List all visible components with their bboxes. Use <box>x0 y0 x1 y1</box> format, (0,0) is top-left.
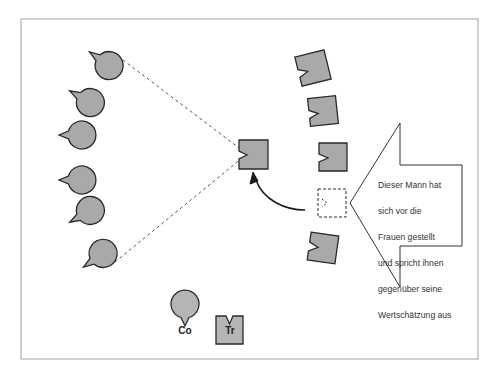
dashed-line-lower <box>115 154 247 262</box>
callout-text: Dieser Mann hat sich vor die Frauen gest… <box>378 166 466 335</box>
man-square-1 <box>295 50 331 86</box>
callout-line-4: und spricht ihnen <box>378 257 466 270</box>
man-square-center <box>239 140 268 169</box>
man-square-5 <box>307 232 339 264</box>
curved-arrow-icon <box>250 172 305 210</box>
woman-circle-4 <box>59 166 96 194</box>
man-square-empty-dashed <box>318 189 346 217</box>
woman-circle-2 <box>64 83 107 120</box>
legend-co-circle <box>171 290 199 326</box>
dashed-line-upper <box>123 60 247 154</box>
woman-circle-6 <box>77 236 121 275</box>
man-square-2 <box>308 96 339 127</box>
callout-line-1: Dieser Mann hat <box>378 179 466 192</box>
legend-co-label: Co <box>175 325 195 336</box>
woman-circle-1 <box>83 44 127 83</box>
man-square-3 <box>319 143 347 171</box>
callout-line-5: gegenüber seine <box>378 283 466 296</box>
woman-circle-3 <box>59 121 96 149</box>
callout-line-6: Wertschätzung aus <box>378 309 466 322</box>
callout-line-2: sich vor die <box>378 205 466 218</box>
callout-line-3: Frauen gestellt <box>378 231 466 244</box>
legend-tr-label: Tr <box>219 325 241 336</box>
woman-circle-5 <box>64 193 107 230</box>
